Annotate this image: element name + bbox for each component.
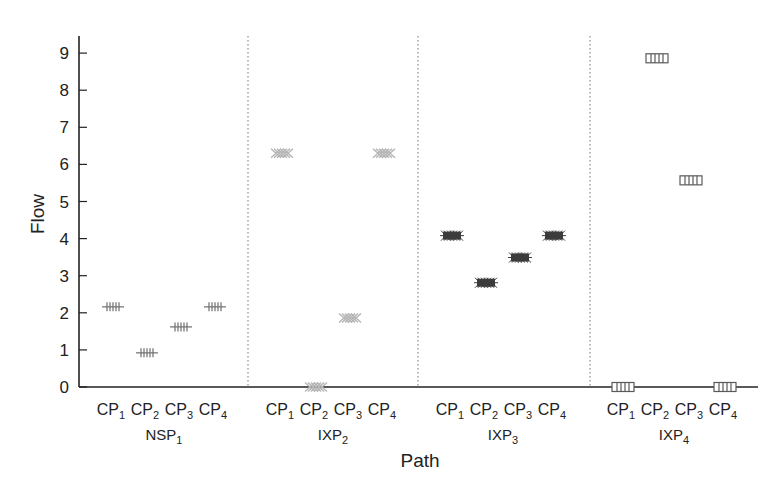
- y-tick-label: 0: [60, 378, 69, 397]
- flow-by-path-chart: 0123456789 CP1CP2CP3CP4NSP1CP1CP2CP3CP4I…: [0, 0, 780, 489]
- square-marker: [680, 176, 702, 185]
- group-label: NSP1: [146, 426, 183, 446]
- x-tick-label: CP1: [266, 401, 294, 421]
- y-tick-label: 2: [60, 304, 69, 323]
- x-tick-label: CP2: [300, 401, 328, 421]
- plus-marker: [170, 322, 192, 331]
- plus-marker: [136, 348, 158, 357]
- cross-marker: [339, 313, 361, 322]
- x-tick-label: CP4: [709, 401, 737, 421]
- cross-marker: [373, 149, 395, 158]
- y-tick-label: 6: [60, 155, 69, 174]
- x-tick-label: CP2: [470, 401, 498, 421]
- x-tick-label: CP3: [504, 401, 532, 421]
- y-tick-label: 7: [60, 118, 69, 137]
- x-tick-label: CP1: [436, 401, 464, 421]
- y-tick-label: 3: [60, 267, 69, 286]
- star-marker: [542, 231, 566, 241]
- x-tick-label: CP2: [131, 401, 159, 421]
- x-tick-label: CP4: [199, 401, 227, 421]
- x-tick-label: CP3: [334, 401, 362, 421]
- data-markers: [102, 54, 736, 392]
- group-label: IXP3: [488, 426, 518, 446]
- y-axis-label: Flow: [27, 194, 48, 234]
- star-marker: [474, 278, 498, 288]
- axes: 0123456789: [60, 36, 758, 397]
- series-ixp4: [612, 54, 736, 392]
- y-tick-label: 4: [60, 230, 69, 249]
- series-ixp3: [440, 231, 566, 288]
- x-tick-label: CP4: [538, 401, 566, 421]
- square-marker: [714, 383, 736, 392]
- x-tick-label: CP2: [641, 401, 669, 421]
- group-label: IXP4: [659, 426, 689, 446]
- y-tick-label: 8: [60, 81, 69, 100]
- plus-marker: [204, 302, 226, 311]
- y-tick-label: 1: [60, 341, 69, 360]
- y-tick-label: 9: [60, 44, 69, 63]
- y-tick-label: 5: [60, 193, 69, 212]
- series-nsp1: [102, 302, 226, 357]
- star-marker: [508, 253, 532, 263]
- series-ixp2: [271, 149, 395, 392]
- x-tick-labels: CP1CP2CP3CP4NSP1CP1CP2CP3CP4IXP2CP1CP2CP…: [97, 401, 737, 446]
- x-tick-label: CP1: [607, 401, 635, 421]
- x-tick-label: CP4: [368, 401, 396, 421]
- x-tick-label: CP3: [165, 401, 193, 421]
- square-marker: [646, 54, 668, 63]
- x-tick-label: CP1: [97, 401, 125, 421]
- group-label: IXP2: [318, 426, 348, 446]
- plus-marker: [102, 302, 124, 311]
- cross-marker: [271, 149, 293, 158]
- x-tick-label: CP3: [675, 401, 703, 421]
- x-axis-label: Path: [400, 450, 439, 471]
- square-marker: [612, 383, 634, 392]
- star-marker: [440, 231, 464, 241]
- group-separators: [248, 36, 590, 387]
